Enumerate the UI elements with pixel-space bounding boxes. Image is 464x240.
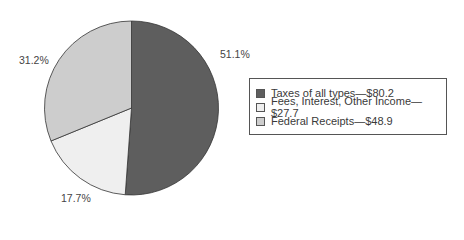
label-federal-pct: 31.2% [19, 54, 49, 66]
legend-swatch-taxes [256, 89, 265, 98]
legend-label-federal: Federal Receipts—$48.9 [271, 115, 393, 127]
label-taxes-pct: 51.1% [220, 48, 250, 60]
legend-swatch-federal [256, 117, 265, 126]
pie-slice-taxes [125, 21, 218, 195]
legend-item-fees: Fees, Interest, Other Income—$27.7 [256, 100, 446, 114]
chart-legend: Taxes of all types—$80.2 Fees, Interest,… [249, 78, 447, 135]
legend-swatch-fees [256, 103, 265, 112]
label-fees-pct: 17.7% [61, 192, 91, 204]
